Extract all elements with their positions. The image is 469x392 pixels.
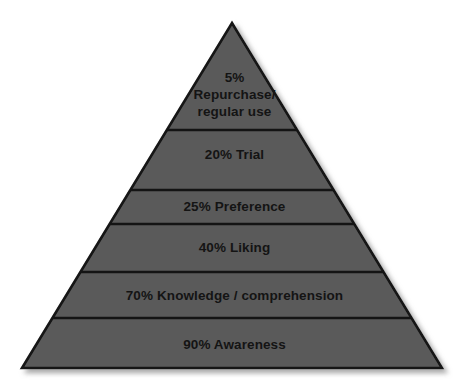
pyramid-chart: 5% Repurchase/ regular use 20% Trial 25%… [0,0,469,392]
pyramid-graphic [0,0,469,392]
pyramid-body [22,23,442,368]
